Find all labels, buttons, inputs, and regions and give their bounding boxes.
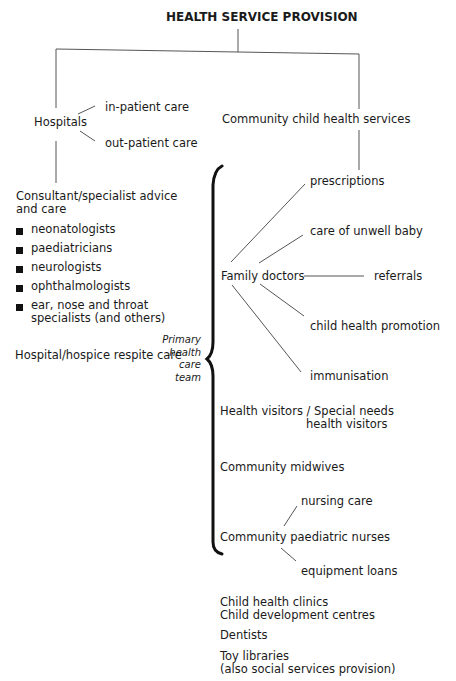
bullet-icon [16, 304, 23, 311]
equipment-loans-node: equipment loans [301, 565, 397, 578]
diagram-title: HEALTH SERVICE PROVISION [166, 11, 358, 24]
unwell-baby-node: care of unwell baby [310, 225, 423, 238]
midwives-node: Community midwives [220, 461, 344, 474]
in-patient-care-node: in-patient care [105, 101, 189, 114]
specialist-item: ophthalmologists [31, 280, 130, 293]
bullet-icon [16, 266, 23, 273]
health-promotion-node: child health promotion [310, 320, 440, 333]
specialist-item: neurologists [31, 261, 101, 274]
child-development-centres: Child development centres [220, 609, 375, 622]
bullet-icon [16, 247, 23, 254]
consultant-line2: and care [16, 203, 66, 216]
dentists: Dentists [220, 629, 267, 642]
community-services-node: Community child health services [222, 113, 410, 126]
respite-care-node: Hospital/hospice respite care [15, 349, 182, 362]
nursing-care-node: nursing care [301, 495, 373, 508]
primary-team-label: Primary health care team [160, 334, 201, 384]
family-doctors-node: Family doctors [221, 270, 305, 283]
brace-icon [207, 166, 222, 554]
bullet-icon [16, 228, 23, 235]
referrals-node: referrals [374, 270, 422, 283]
specialist-item: paediatricians [31, 242, 112, 255]
hospitals-node: Hospitals [34, 116, 87, 129]
toy-libraries-note: (also social services provision) [220, 663, 396, 676]
immunisation-node: immunisation [310, 370, 388, 383]
prescriptions-node: prescriptions [310, 175, 384, 188]
health-visitors-line2: health visitors [306, 418, 388, 431]
specialist-item: neonatologists [31, 223, 116, 236]
bullet-icon [16, 285, 23, 292]
paediatric-nurses-node: Community paediatric nurses [220, 531, 390, 544]
specialist-item-cont: specialists (and others) [31, 312, 165, 325]
connector-lines [0, 0, 456, 681]
out-patient-care-node: out-patient care [105, 137, 197, 150]
